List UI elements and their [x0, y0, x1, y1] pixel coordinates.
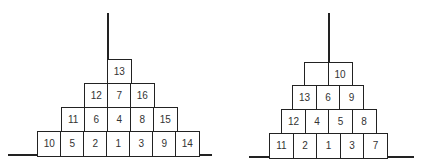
- pyramid-cell: 14: [175, 131, 200, 157]
- pyramid-cell: 5: [328, 109, 353, 135]
- pyramid-cell: 10: [37, 131, 62, 157]
- pyramid-cell: 10: [328, 62, 353, 88]
- pyramid-cell: 7: [363, 133, 388, 159]
- pyramid-cell: 1: [316, 133, 341, 159]
- pyramid-cell: 2: [293, 133, 318, 159]
- pyramid-cell: 6: [84, 107, 109, 133]
- pyramid-cell: 4: [305, 109, 330, 135]
- pyramid-cell: 15: [153, 107, 178, 133]
- pyramid-cell: 7: [107, 83, 132, 109]
- pyramid-cell: 6: [316, 85, 341, 111]
- left-pyramid-pole: [107, 13, 109, 59]
- pyramid-cell: 13: [107, 59, 132, 85]
- pyramid-cell: 2: [83, 131, 108, 157]
- pyramid-cell: 11: [61, 107, 86, 133]
- pyramid-cell: 16: [130, 83, 155, 109]
- pyramid-cell: 3: [129, 131, 154, 157]
- pyramid-cell: 11: [269, 133, 294, 159]
- pyramid-cell: 13: [292, 85, 317, 111]
- pyramid-cell: 9: [339, 85, 364, 111]
- pyramid-cell: 12: [281, 109, 306, 135]
- pyramid-cell: 8: [352, 109, 377, 135]
- pyramid-cell: 3: [340, 133, 365, 159]
- pyramid-cell: 1: [106, 131, 131, 157]
- pyramid-cell: 12: [84, 83, 109, 109]
- pyramid-cell: 8: [130, 107, 155, 133]
- pyramid-cell: 5: [60, 131, 85, 157]
- pyramid-cell: 9: [152, 131, 177, 157]
- pyramid-cell: 4: [107, 107, 132, 133]
- right-pyramid-pole: [328, 13, 330, 62]
- pyramid-cell: [304, 62, 329, 88]
